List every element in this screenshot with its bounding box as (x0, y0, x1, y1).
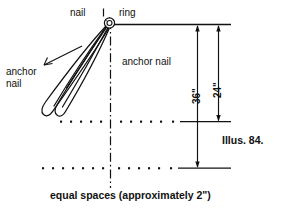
figure-number: Illus. 84. (222, 135, 263, 146)
label-anchor-nail-left-line1: anchor (6, 66, 37, 78)
ring-icon (104, 17, 114, 28)
label-ring: ring (119, 8, 136, 18)
anchor-nail-strand-3 (67, 31, 104, 88)
anchor-nail-loops (42, 26, 109, 117)
dimension-label-24: 24" (213, 82, 223, 98)
figure-caption: equal spaces (approximately 2") (50, 190, 211, 201)
dotted-row-bottom (42, 167, 231, 169)
figure-drawing (0, 0, 283, 212)
dimension-line-24 (216, 25, 220, 122)
dotted-row-middle (60, 121, 231, 123)
label-anchor-nail-left: anchor nail (6, 66, 37, 90)
anchor-nail-strand-2 (63, 28, 109, 108)
label-nail: nail (70, 8, 86, 18)
label-anchor-nail-middle: anchor nail (122, 57, 171, 67)
dimension-label-36: 36" (192, 88, 202, 104)
illustration-figure: nail ring anchor nail anchor nail 36" 24… (0, 0, 283, 212)
label-anchor-nail-left-line2: nail (6, 78, 37, 90)
